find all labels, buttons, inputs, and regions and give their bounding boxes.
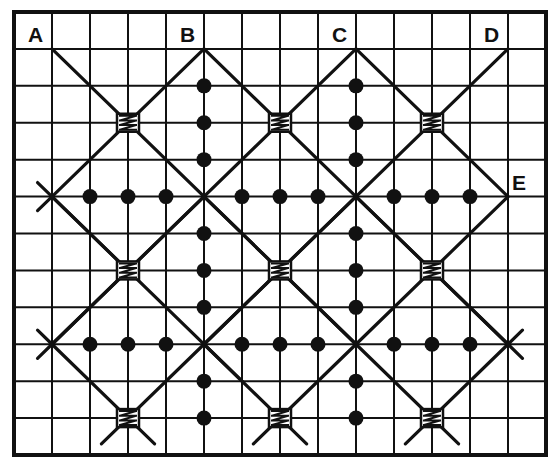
dot: [387, 189, 402, 204]
dot: [197, 152, 212, 167]
dot: [425, 189, 440, 204]
dot: [83, 337, 98, 352]
dot: [349, 374, 364, 389]
stitch-diagram: ABCDE: [0, 0, 558, 469]
x-mark: [508, 330, 522, 344]
dot: [83, 189, 98, 204]
dot: [273, 337, 288, 352]
dot: [425, 337, 440, 352]
dot: [197, 300, 212, 315]
diagonal-line: [101, 344, 204, 444]
grid: [14, 12, 546, 455]
diagonal-line: [204, 344, 307, 444]
label-b: B: [180, 23, 195, 46]
diagonal-line: [52, 344, 155, 444]
dot: [197, 78, 212, 93]
dot: [121, 189, 136, 204]
dot: [349, 300, 364, 315]
wrap-stitch: [117, 261, 139, 279]
dot: [349, 411, 364, 426]
dot: [349, 115, 364, 130]
label-a: A: [28, 23, 43, 46]
dot: [235, 337, 250, 352]
diagonal-line: [405, 344, 508, 444]
dot: [121, 337, 136, 352]
dot: [349, 263, 364, 278]
diagonal-line: [253, 344, 356, 444]
dot: [463, 189, 478, 204]
wrap-stitch: [421, 409, 443, 427]
x-mark: [38, 183, 52, 197]
dot: [197, 115, 212, 130]
dot: [349, 152, 364, 167]
dot: [387, 337, 402, 352]
x-mark: [38, 197, 52, 211]
dot: [197, 374, 212, 389]
dot: [235, 189, 250, 204]
label-c: C: [332, 23, 347, 46]
dot: [197, 263, 212, 278]
dot: [159, 189, 174, 204]
dot: [463, 337, 478, 352]
wrap-stitch: [269, 409, 291, 427]
wrap-stitch: [117, 114, 139, 132]
dot: [311, 337, 326, 352]
diagonal-line: [356, 344, 459, 444]
dot: [159, 337, 174, 352]
x-mark: [38, 330, 52, 344]
wrap-stitch: [269, 114, 291, 132]
dot: [197, 226, 212, 241]
dot: [197, 411, 212, 426]
wrap-stitch: [117, 409, 139, 427]
label-e: E: [512, 171, 526, 194]
label-d: D: [484, 23, 499, 46]
wrap-stitch: [269, 261, 291, 279]
dot: [273, 189, 288, 204]
dot: [349, 78, 364, 93]
wrap-stitch: [421, 261, 443, 279]
wrap-stitch: [421, 114, 443, 132]
dot: [349, 226, 364, 241]
x-mark: [38, 344, 52, 358]
x-mark: [508, 344, 522, 358]
dot: [311, 189, 326, 204]
